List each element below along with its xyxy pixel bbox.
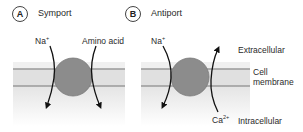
ion-charge: + (46, 35, 49, 41)
ion-name: Na (35, 36, 46, 46)
transporter-a (54, 58, 92, 96)
panel-b-ion-left: Na+ (151, 37, 165, 46)
panel-b-badge: B (125, 6, 141, 22)
panel-a-ion-right: Amino acid (82, 37, 124, 46)
panel-a-badge: A (12, 6, 28, 22)
region-membrane-line2: membrane (253, 78, 294, 87)
ion-name: Amino acid (82, 36, 124, 46)
panel-a-title: Symport (38, 9, 72, 18)
panel-a-ion-left: Na+ (35, 37, 49, 46)
transporter-b (171, 58, 209, 96)
diagram-canvas (0, 0, 303, 132)
ion-name: Ca (212, 115, 223, 125)
region-intracellular: Intracellular (238, 117, 282, 126)
ion-name: Na (151, 36, 162, 46)
panel-b-title: Antiport (151, 9, 182, 18)
region-extracellular: Extracellular (238, 46, 285, 55)
ion-charge: + (162, 35, 165, 41)
region-membrane-line1: Cell (253, 68, 268, 77)
ion-charge: 2+ (223, 114, 229, 120)
panel-b-ion-right: Ca2+ (212, 116, 229, 125)
